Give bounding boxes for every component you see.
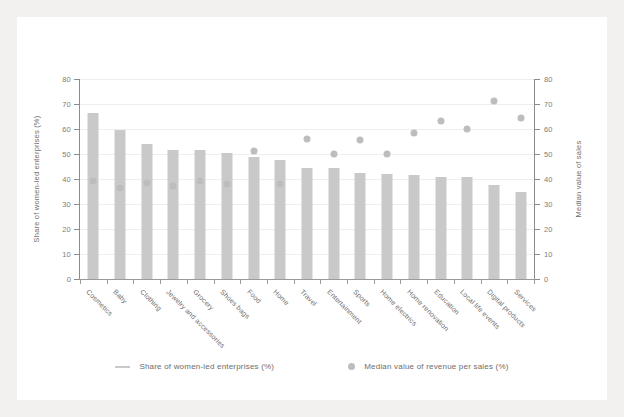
x-axis-tick-label: Baby <box>112 288 129 305</box>
x-axis-tick <box>374 279 375 284</box>
y-axis-left-tick-label: 20 <box>62 225 71 234</box>
plot-area: 01020304050607080 01020304050607080 Cosm… <box>80 79 534 279</box>
x-axis-tick <box>507 279 508 284</box>
legend-dot-swatch-icon <box>348 363 355 370</box>
y-axis-right-tick-label: 80 <box>544 75 553 84</box>
y-axis-left-tick <box>74 154 79 155</box>
x-axis-tick-label: Food <box>246 288 263 305</box>
legend-label: Share of women-led enterprises (%) <box>139 362 274 371</box>
y-axis-right-tick-label: 30 <box>544 200 553 209</box>
y-axis-right-tick <box>535 279 540 280</box>
x-axis-tick <box>400 279 401 284</box>
x-axis-tick <box>187 279 188 284</box>
legend-label: Median value of revenue per sales (%) <box>364 362 508 371</box>
y-axis-left-tick-label: 80 <box>62 75 71 84</box>
y-axis-right-title: Median value of sales <box>574 141 583 218</box>
y-axis-right-tick-label: 0 <box>544 275 548 284</box>
x-axis-tick <box>240 279 241 284</box>
y-axis-left-tick <box>74 179 79 180</box>
x-axis-tick <box>481 279 482 284</box>
chart-card: 01020304050607080 01020304050607080 Cosm… <box>17 17 607 400</box>
x-axis-tick-label: Grocery <box>192 288 215 311</box>
y-axis-right-tick-label: 70 <box>544 100 553 109</box>
x-axis-tick <box>80 279 81 284</box>
y-axis-left-tick <box>74 129 79 130</box>
y-axis-right-tick <box>535 179 540 180</box>
x-axis-tick-label: Services <box>513 288 538 313</box>
y-axis-right-tick <box>535 229 540 230</box>
x-axis-line <box>79 279 535 280</box>
y-axis-left-tick <box>74 79 79 80</box>
x-axis-tick <box>160 279 161 284</box>
y-axis-left-tick <box>74 104 79 105</box>
y-axis-left-tick-label: 60 <box>62 125 71 134</box>
y-axis-left-tick-label: 0 <box>67 275 71 284</box>
y-axis-left-tick <box>74 279 79 280</box>
x-axis-tick <box>133 279 134 284</box>
x-axis-tick-label: Education <box>433 288 461 316</box>
x-axis-tick-label: Clothing <box>139 288 163 312</box>
y-axis-left-tick-label: 50 <box>62 150 71 159</box>
y-axis-left-tick <box>74 254 79 255</box>
y-axis-right-tick-label: 40 <box>544 175 553 184</box>
y-axis-left-tick-label: 10 <box>62 250 71 259</box>
y-axis-right-tick <box>535 104 540 105</box>
y-axis-right-tick <box>535 79 540 80</box>
x-axis-tick <box>294 279 295 284</box>
x-axis-tick <box>107 279 108 284</box>
x-axis-tick <box>267 279 268 284</box>
y-axis-right-tick <box>535 129 540 130</box>
chart-legend: Share of women-led enterprises (%)Median… <box>17 362 607 371</box>
y-axis-right-tick <box>535 204 540 205</box>
y-axis-right-tick-label: 60 <box>544 125 553 134</box>
legend-item[interactable]: Median value of revenue per sales (%) <box>348 362 508 371</box>
y-axis-left-tick <box>74 229 79 230</box>
x-axis-tick <box>214 279 215 284</box>
x-axis-tick <box>320 279 321 284</box>
y-axis-right-tick <box>535 254 540 255</box>
y-axis-left-tick-label: 30 <box>62 200 71 209</box>
y-axis-right-tick <box>535 154 540 155</box>
x-axis-ticks-and-labels: CosmeticsBabyClothingJewelry and accesso… <box>80 79 534 279</box>
x-axis-tick <box>534 279 535 284</box>
y-axis-left-tick-label: 70 <box>62 100 71 109</box>
x-axis-tick-label: Travel <box>299 288 318 307</box>
y-axis-left-tick-label: 40 <box>62 175 71 184</box>
y-axis-right-tick-label: 10 <box>544 250 553 259</box>
x-axis-tick <box>427 279 428 284</box>
x-axis-tick <box>347 279 348 284</box>
x-axis-tick-label: Sports <box>352 288 372 308</box>
x-axis-tick-label: Home <box>272 288 291 307</box>
y-axis-left-title: Share of women-led enterprises (%) <box>32 116 41 243</box>
x-axis-tick-label: Cosmetics <box>85 288 114 317</box>
y-axis-right-tick-label: 50 <box>544 150 553 159</box>
x-axis-tick <box>454 279 455 284</box>
legend-line-swatch-icon <box>115 366 130 368</box>
legend-item[interactable]: Share of women-led enterprises (%) <box>115 362 274 371</box>
y-axis-right-tick-label: 20 <box>544 225 553 234</box>
y-axis-left-tick <box>74 204 79 205</box>
